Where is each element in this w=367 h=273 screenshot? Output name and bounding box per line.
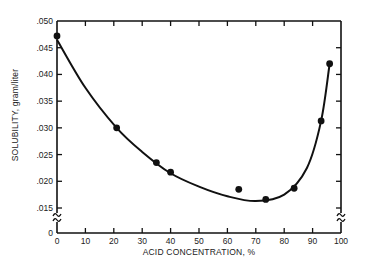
plot-frame <box>57 21 341 233</box>
y-tick-label: 0 <box>48 228 53 238</box>
y-tick-label: .030 <box>36 123 53 133</box>
y-tick-label: .035 <box>36 96 53 106</box>
break-mark-icon <box>337 219 345 222</box>
data-point <box>153 159 160 166</box>
x-tick-label: 60 <box>223 236 233 246</box>
data-point <box>167 169 174 176</box>
break-mark-icon <box>53 214 61 217</box>
y-tick-label: .045 <box>36 43 53 53</box>
x-tick-label: 70 <box>251 236 261 246</box>
y-tick-label: .040 <box>36 69 53 79</box>
x-tick-label: 80 <box>279 236 289 246</box>
x-tick-label: 30 <box>137 236 147 246</box>
y-tick-label: .015 <box>36 203 53 213</box>
y-tick-label: .025 <box>36 150 53 160</box>
x-axis-ticks: 0102030405060708090100 <box>55 21 349 246</box>
x-tick-label: 50 <box>194 236 204 246</box>
x-tick-label: 40 <box>166 236 176 246</box>
y-tick-label: .050 <box>36 16 53 26</box>
y-axis-ticks: .050.045.040.035.030.025.020.0150 <box>36 16 341 238</box>
data-point <box>235 186 242 193</box>
x-tick-label: 100 <box>334 236 348 246</box>
data-point <box>318 118 325 125</box>
data-point <box>262 196 269 203</box>
data-point <box>326 60 333 67</box>
data-point <box>54 33 61 40</box>
axis-break-marks <box>53 214 345 222</box>
y-axis-title: SOLUBILITY, gram/liter <box>10 69 20 162</box>
x-tick-label: 20 <box>109 236 119 246</box>
x-tick-label: 90 <box>308 236 318 246</box>
fitted-curve <box>57 40 330 201</box>
y-tick-label: .020 <box>36 176 53 186</box>
break-mark-icon <box>53 219 61 222</box>
x-tick-label: 0 <box>55 236 60 246</box>
x-axis-title: ACID CONCENTRATION, % <box>143 247 256 257</box>
break-mark-icon <box>337 214 345 217</box>
solubility-chart: 0102030405060708090100 .050.045.040.035.… <box>0 0 367 273</box>
data-point <box>291 185 298 192</box>
data-points <box>54 33 333 203</box>
data-point <box>113 124 120 131</box>
x-tick-label: 10 <box>81 236 91 246</box>
